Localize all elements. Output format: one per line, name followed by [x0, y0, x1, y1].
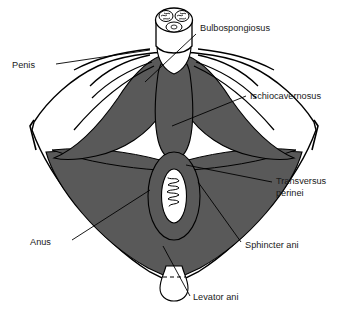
- label-penis: Penis: [12, 60, 35, 70]
- label-ischiocavernosus: Ischiocavernosus: [250, 91, 321, 101]
- perineum-diagram-svg: Penis Bulbospongiosus Ischiocavernosus T…: [0, 0, 348, 314]
- label-transversus-perinei-line1: Transversus: [276, 176, 327, 186]
- label-sphincter-ani: Sphincter ani: [245, 240, 299, 250]
- label-levator-ani: Levator ani: [193, 292, 238, 302]
- label-anus: Anus: [30, 237, 51, 247]
- anus-opening: [162, 169, 187, 223]
- label-transversus-perinei-line2: perinei: [276, 188, 304, 198]
- label-bulbospongiosus: Bulbospongiosus: [200, 23, 270, 33]
- anatomy-diagram-figure: Penis Bulbospongiosus Ischiocavernosus T…: [0, 0, 348, 314]
- coccyx: [160, 266, 188, 301]
- urethra: [171, 25, 177, 29]
